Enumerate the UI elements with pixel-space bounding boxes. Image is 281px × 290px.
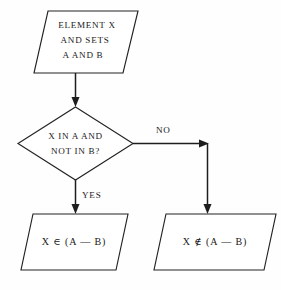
input-line-2: AND SETS xyxy=(61,35,110,45)
output-nonmember-formula: X ∉ (A — B) xyxy=(183,236,248,248)
edge-input-to-decision xyxy=(72,73,80,107)
input-line-3: A AND B xyxy=(63,50,104,60)
edge-decision-no-arrowhead xyxy=(204,204,212,214)
decision-diamond-shape xyxy=(18,107,133,180)
flowchart-diagram: ELEMENT X AND SETS A AND B X IN A AND NO… xyxy=(0,0,281,290)
node-output-nonmember: X ∉ (A — B) xyxy=(154,214,276,270)
decision-line-1: X IN A AND xyxy=(48,131,103,141)
input-line-1: ELEMENT X xyxy=(58,20,115,30)
edge-label-yes: YES xyxy=(82,190,102,200)
edge-decision-yes: YES xyxy=(72,180,102,214)
node-output-member: X ∈ (A — B) xyxy=(21,214,128,270)
output-member-formula: X ∈ (A — B) xyxy=(42,236,107,248)
decision-line-2: NOT IN B? xyxy=(51,146,100,156)
edge-input-to-decision-arrowhead xyxy=(72,97,80,107)
node-input-element-and-sets: ELEMENT X AND SETS A AND B xyxy=(34,11,138,73)
edge-decision-no: NO xyxy=(133,125,212,214)
flowchart-canvas: ELEMENT X AND SETS A AND B X IN A AND NO… xyxy=(0,0,281,290)
node-decision-x-in-a-not-in-b: X IN A AND NOT IN B? xyxy=(18,107,133,180)
edge-label-no: NO xyxy=(156,125,171,135)
edge-decision-yes-arrowhead xyxy=(72,204,80,214)
